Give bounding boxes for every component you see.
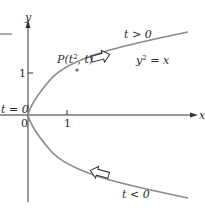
y-axis-label: y: [24, 11, 32, 24]
upper-branch-label: t > 0: [124, 28, 152, 41]
diagram-svg: y x 1 1 0 t = 0 t > 0 t < 0 P(t2, t) y2 …: [0, 0, 205, 210]
x-axis-label: x: [199, 109, 205, 122]
x-axis-arrowhead-icon: [190, 113, 198, 118]
x-tick-label: 1: [64, 117, 71, 130]
origin-param-label: t = 0: [1, 103, 29, 116]
origin-label: 0: [21, 117, 28, 130]
lower-branch-label: t < 0: [122, 188, 150, 201]
y-tick-label: 1: [19, 67, 26, 80]
parametric-parabola-diagram: y x 1 1 0 t = 0 t > 0 t < 0 P(t2, t) y2 …: [0, 0, 205, 210]
point-p: [75, 68, 78, 71]
curve-equation-label: y2 = x: [135, 54, 170, 67]
point-label: P(t2, t): [56, 53, 93, 66]
